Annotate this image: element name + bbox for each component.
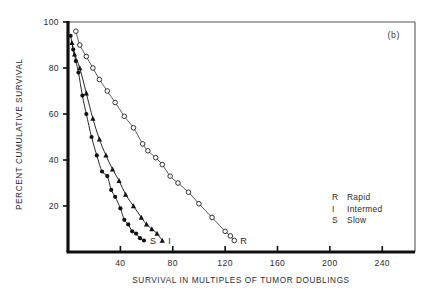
data-point-open-circle <box>74 29 79 34</box>
data-point-filled-circle <box>109 188 113 192</box>
data-point-filled-circle <box>80 94 84 98</box>
data-point-filled-circle <box>113 195 117 199</box>
data-point-filled-circle <box>118 206 122 210</box>
x-tick-label: 160 <box>270 258 286 268</box>
data-point-filled-circle <box>76 71 80 75</box>
figure-panel-b: 20406080100 4080120160200240 SIR PERCENT… <box>0 0 439 295</box>
data-point-filled-circle <box>100 169 104 173</box>
data-point-filled-circle <box>69 34 73 38</box>
x-tick-label: 200 <box>322 258 338 268</box>
data-point-filled-circle <box>71 48 75 52</box>
data-point-filled-circle <box>134 232 138 236</box>
data-point-open-circle <box>210 215 215 220</box>
data-point-filled-circle <box>89 135 93 139</box>
y-tick-label: 40 <box>49 155 59 165</box>
data-point-filled-circle <box>74 59 78 63</box>
curve-end-label-slow: S <box>150 236 156 246</box>
x-axis-title: SURVIVAL IN MULTIPLES OF TUMOR DOUBLINGS <box>132 276 349 285</box>
x-tick-label: 240 <box>374 258 390 268</box>
y-tick-label: 100 <box>43 17 59 27</box>
legend-key-slow: S <box>332 215 338 225</box>
data-point-filled-circle <box>142 238 146 242</box>
data-point-open-circle <box>186 190 191 195</box>
legend-key-rapid: R <box>332 192 338 202</box>
curve-end-label-intermed: I <box>168 236 171 246</box>
data-point-open-circle <box>223 229 228 234</box>
data-point-filled-circle <box>130 229 134 233</box>
data-point-open-circle <box>176 181 181 186</box>
y-tick-label: 20 <box>49 201 59 211</box>
data-point-open-circle <box>232 238 237 243</box>
data-point-open-circle <box>197 201 202 206</box>
data-point-filled-circle <box>95 153 99 157</box>
data-point-open-circle <box>168 174 173 179</box>
data-point-open-circle <box>228 234 233 239</box>
y-axis-title: PERCENT CUMULATIVE SURVIVAL <box>15 58 24 210</box>
x-tick-label: 80 <box>168 258 178 268</box>
data-point-open-circle <box>160 162 165 167</box>
data-point-filled-circle <box>126 222 130 226</box>
data-point-filled-circle <box>105 174 109 178</box>
data-point-open-circle <box>140 142 145 147</box>
data-point-open-circle <box>77 43 82 48</box>
data-point-open-circle <box>105 89 110 94</box>
data-point-filled-circle <box>84 112 88 116</box>
legend-label-rapid: Rapid <box>347 192 370 202</box>
x-tick-label: 120 <box>217 258 233 268</box>
panel-label: (b) <box>387 30 400 40</box>
x-tick-label: 40 <box>115 258 125 268</box>
data-point-open-circle <box>113 100 118 105</box>
data-point-open-circle <box>153 155 158 160</box>
legend-key-intermed: I <box>332 204 335 214</box>
y-tick-label: 60 <box>49 109 59 119</box>
legend-label-slow: Slow <box>347 215 367 225</box>
data-point-filled-circle <box>138 236 142 240</box>
data-point-open-circle <box>97 77 102 82</box>
data-point-filled-circle <box>122 218 126 222</box>
survival-curve-chart: 20406080100 4080120160200240 SIR PERCENT… <box>0 0 439 295</box>
data-point-open-circle <box>122 114 127 119</box>
y-tick-label: 80 <box>49 63 59 73</box>
curve-end-label-rapid: R <box>240 236 247 246</box>
data-point-open-circle <box>91 66 96 71</box>
data-point-open-circle <box>146 149 151 154</box>
data-point-open-circle <box>84 54 89 59</box>
legend-label-intermed: Intermed <box>347 204 382 214</box>
data-point-open-circle <box>131 126 136 131</box>
